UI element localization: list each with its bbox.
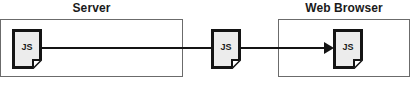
js-document-icon-browser: JS: [333, 29, 363, 69]
group-label-browser: Web Browser: [278, 1, 410, 15]
connector-wire-to-browser: [236, 47, 328, 49]
document-icon: [211, 29, 241, 69]
group-label-server: Server: [0, 1, 183, 15]
connector-server-to-wire: [36, 47, 216, 49]
document-icon: [333, 29, 363, 69]
document-icon: [12, 29, 42, 69]
diagram-canvas: Server Web Browser JS JS JS: [0, 0, 417, 90]
js-document-icon-transit: JS: [211, 29, 241, 69]
js-document-icon-server: JS: [12, 29, 42, 69]
